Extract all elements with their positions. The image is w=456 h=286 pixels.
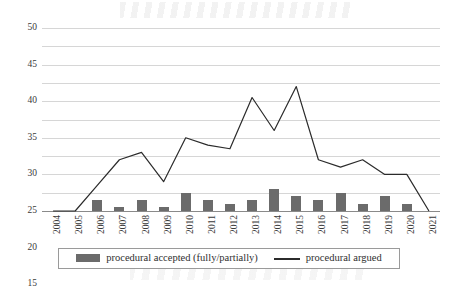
y-axis-tick-label: 20 xyxy=(28,243,38,253)
plot-area: 05101520253035404550 xyxy=(42,28,440,211)
y-axis-tick-label: 25 xyxy=(28,206,38,216)
chart-legend: procedural accepted (fully/partially) pr… xyxy=(58,248,400,269)
y-axis-tick-label: 35 xyxy=(28,133,38,143)
y-axis-tick-label: 50 xyxy=(28,23,38,33)
y-axis-tick-label: 45 xyxy=(28,60,38,70)
bar-swatch-icon xyxy=(76,254,100,262)
y-axis-tick-label: 15 xyxy=(28,279,38,286)
gridline: 0 xyxy=(42,211,440,212)
y-axis-tick-label: 40 xyxy=(28,96,38,106)
x-axis: 2004200520062007200820092010201120122013… xyxy=(42,213,440,249)
line-series-layer xyxy=(42,28,440,211)
legend-label-procedural-accepted: procedural accepted (fully/partially) xyxy=(106,253,258,264)
line-swatch-icon xyxy=(274,254,300,262)
legend-item-procedural-argued: procedural argued xyxy=(274,253,382,264)
legend-label-procedural-argued: procedural argued xyxy=(306,253,382,264)
y-axis-tick-label: 30 xyxy=(28,170,38,180)
chart-container: 05101520253035404550 2004200520062007200… xyxy=(0,0,456,286)
watermark-top xyxy=(120,2,350,18)
line-path-procedural-argued xyxy=(53,87,429,211)
legend-item-procedural-accepted: procedural accepted (fully/partially) xyxy=(76,253,258,264)
